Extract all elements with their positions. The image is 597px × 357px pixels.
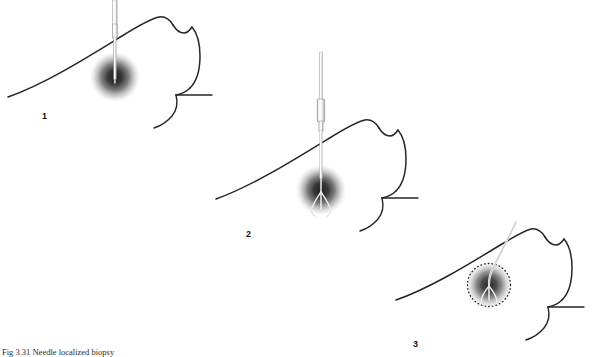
panel-number-1: 1 [42,112,47,121]
panel-3-group [396,222,584,340]
panel-1-group [8,0,212,128]
panel-2-group [216,52,418,231]
figure-root: 1 2 3 Fig 3.31 Needle localized biopsy [0,0,597,357]
panel-number-2: 2 [246,230,251,239]
needle-localized-biopsy-illustration [0,0,597,357]
figure-caption: Fig 3.31 Needle localized biopsy [2,347,422,357]
